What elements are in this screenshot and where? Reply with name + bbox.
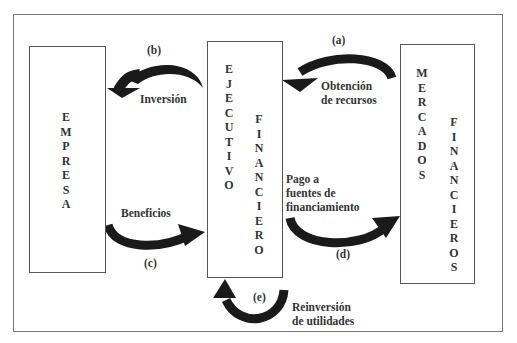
letter: N <box>255 170 264 185</box>
letter: I <box>227 149 232 164</box>
empresa-label: EMPRESA <box>52 110 80 212</box>
letter: I <box>452 130 457 145</box>
flow-c-label: Beneficios <box>121 206 171 220</box>
letter: F <box>450 115 457 130</box>
flow-d-label-line3: financiamiento <box>286 200 359 214</box>
ejecutivo-financiero-box <box>207 41 283 278</box>
letter: S <box>63 183 70 198</box>
letter: V <box>225 164 234 179</box>
letter: A <box>62 197 71 212</box>
letter: I <box>257 199 262 214</box>
letter: M <box>416 66 427 81</box>
arrow-d-icon <box>290 216 400 243</box>
letter: M <box>60 125 71 140</box>
letter: P <box>62 139 69 154</box>
flow-e-tag: (e) <box>253 290 266 304</box>
letter: T <box>225 135 233 150</box>
financiero-label: FINANCIERO <box>251 112 267 257</box>
letter: R <box>255 228 264 243</box>
letter: E <box>450 217 458 232</box>
flow-d-tag: (d) <box>336 247 350 261</box>
flow-a-tag: (a) <box>332 33 345 47</box>
ejecutivo-label: EJECUTIVO <box>221 62 237 193</box>
flow-d-label-line1: Pago a <box>286 172 319 186</box>
letter: C <box>255 185 264 200</box>
letter: O <box>224 178 233 193</box>
arrow-e-icon <box>213 279 284 319</box>
financieros-label: FINANCIEROS <box>446 115 462 275</box>
letter: E <box>225 91 233 106</box>
flow-c-tag: (c) <box>144 256 157 270</box>
letter: I <box>452 202 457 217</box>
letter: A <box>255 156 264 171</box>
letter: E <box>62 110 70 125</box>
flow-b-label: Inversión <box>140 92 187 106</box>
mercados-financieros-box <box>400 44 475 284</box>
letter: N <box>255 141 264 156</box>
letter: E <box>418 81 426 96</box>
letter: N <box>450 173 459 188</box>
letter: S <box>451 260 458 275</box>
flow-d-label-line2: fuentes de <box>286 186 336 200</box>
letter: C <box>450 188 459 203</box>
flow-e-label-line1: Reinversión <box>292 300 351 314</box>
letter: J <box>226 77 232 92</box>
letter: A <box>418 124 427 139</box>
letter: S <box>419 168 426 183</box>
letter: E <box>225 62 233 77</box>
letter: R <box>418 95 427 110</box>
mercados-label: MERCADOS <box>414 66 430 182</box>
arrow-c-icon <box>108 224 205 246</box>
letter: O <box>254 243 263 258</box>
letter: C <box>225 106 234 121</box>
flow-a-label-line1: Obtención <box>321 79 372 93</box>
letter: N <box>450 144 459 159</box>
letter: E <box>62 168 70 183</box>
letter: R <box>450 231 459 246</box>
letter: D <box>418 139 427 154</box>
flow-a-label-line2: de recursos <box>321 93 377 107</box>
letter: I <box>257 127 262 142</box>
letter: U <box>225 120 234 135</box>
letter: A <box>450 159 459 174</box>
letter: R <box>62 154 71 169</box>
flow-b-tag: (b) <box>147 43 161 57</box>
letter: F <box>255 112 262 127</box>
flow-e-label-line2: de utilidades <box>292 314 354 328</box>
letter: E <box>255 214 263 229</box>
letter: O <box>449 246 458 261</box>
letter: C <box>418 110 427 125</box>
letter: O <box>417 153 426 168</box>
